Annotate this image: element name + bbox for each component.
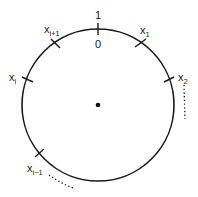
svg-text:xi+1: xi+1 [44, 23, 60, 38]
continuation-dots-x2 [184, 85, 185, 119]
svg-text:x1: x1 [140, 24, 150, 39]
label-x2: x2 [178, 71, 188, 86]
center-dot [96, 103, 101, 108]
svg-text:xi: xi [9, 71, 17, 86]
continuation-dots-xi-minus-1 [49, 175, 73, 188]
label-xi: xi [9, 71, 17, 86]
diagram-canvas: 1 0 x1 x2 xi+1 xi [0, 0, 198, 197]
label-zero: 0 [95, 38, 101, 50]
svg-text:x2: x2 [178, 71, 188, 86]
svg-text:xi−1: xi−1 [27, 162, 43, 177]
label-x1: x1 [140, 24, 150, 39]
circle-diagram: 1 0 x1 x2 xi+1 xi [0, 0, 198, 197]
label-xi-minus-1: xi−1 [27, 162, 43, 177]
label-xi-plus-1: xi+1 [44, 23, 60, 38]
label-one: 1 [95, 9, 101, 21]
